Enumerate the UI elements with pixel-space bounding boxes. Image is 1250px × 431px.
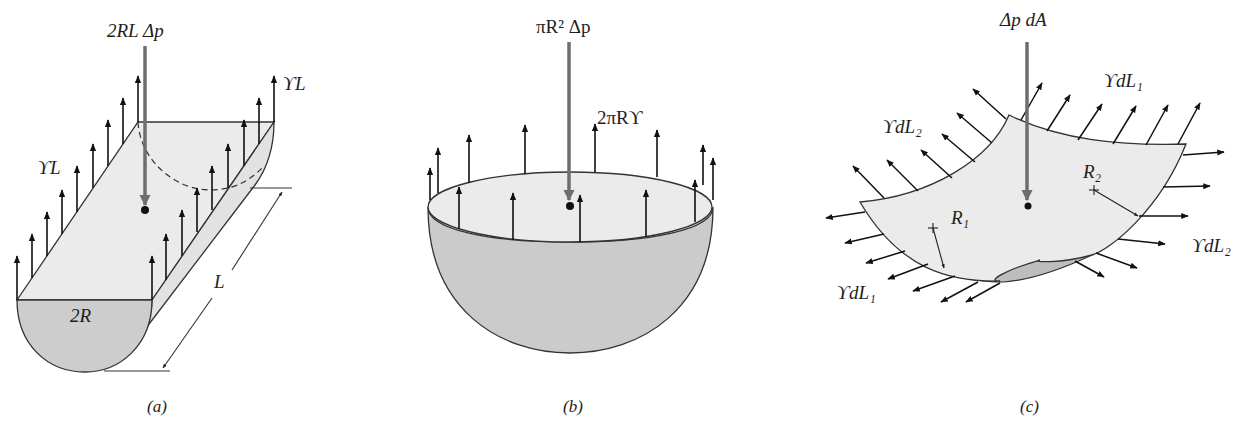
panel-a-half-cylinder — [17, 46, 292, 372]
label-tension-b: 2πRϒ — [597, 108, 643, 127]
panel-b-hemisphere — [428, 42, 713, 353]
figure-canvas — [0, 0, 1250, 431]
label-pressure-force-b: πR² Δp — [536, 17, 590, 36]
label-radius-1: R₁ — [951, 208, 969, 227]
panel-c-surface-element — [826, 42, 1224, 302]
label-pressure-force-c: Δp dA — [1000, 10, 1047, 29]
caption-b: (b) — [563, 397, 583, 417]
label-tension-right-a: ϒL — [283, 74, 306, 93]
label-pressure-force-a: 2RL Δp — [107, 21, 164, 40]
caption-a: (a) — [147, 397, 167, 417]
caption-c: (c) — [1020, 397, 1039, 417]
label-radius-2: R₂ — [1083, 162, 1101, 181]
label-tension-right-c: ϒdL₂ — [1192, 236, 1231, 255]
label-tension-left-a: ϒL — [38, 158, 61, 177]
label-diameter: 2R — [70, 306, 91, 325]
surface-element — [860, 115, 1186, 281]
label-tension-top-c: ϒdL₁ — [1104, 71, 1143, 90]
label-length: L — [214, 272, 225, 291]
label-tension-left-c: ϒdL₂ — [883, 117, 922, 136]
label-tension-bottom-c: ϒdL₁ — [837, 283, 876, 302]
